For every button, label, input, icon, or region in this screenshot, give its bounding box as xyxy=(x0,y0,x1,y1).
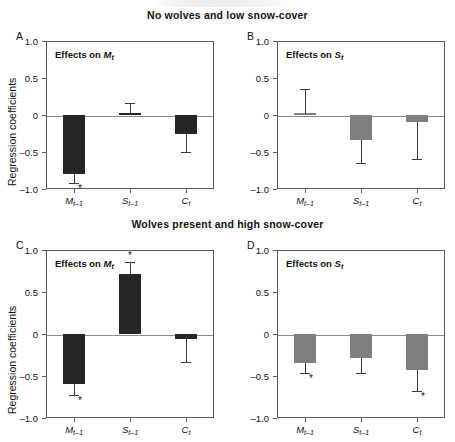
error-bar-c-2 xyxy=(186,339,187,362)
panel-caption-d: Effects on St xyxy=(286,258,343,269)
x-tick-label-c-1: St–1 xyxy=(122,424,138,435)
y-tick-mark-a-3 xyxy=(42,152,46,153)
significance-star-d-0: * xyxy=(309,374,313,384)
plot-area-c xyxy=(46,250,214,418)
y-axis-label-a: Regression coefficients xyxy=(6,78,18,186)
panel-caption-a: Effects on Mt xyxy=(55,49,114,60)
bar-b-1 xyxy=(350,115,372,140)
y-tick-label-d-3: –0.5 xyxy=(241,371,269,382)
y-tick-mark-b-4 xyxy=(273,189,277,190)
y-tick-label-b-4: –1.0 xyxy=(241,184,269,195)
x-tick-mark-b-2 xyxy=(417,189,418,193)
y-tick-mark-b-1 xyxy=(273,78,277,79)
y-tick-mark-d-2 xyxy=(273,334,277,335)
y-tick-label-b-1: 0.5 xyxy=(241,73,269,84)
y-tick-label-c-4: –1.0 xyxy=(10,413,38,424)
y-tick-mark-d-3 xyxy=(273,376,277,377)
error-cap-d-1 xyxy=(356,373,366,374)
panel-letter-d: D xyxy=(247,239,255,251)
error-cap-a-2 xyxy=(181,152,191,153)
y-tick-mark-b-0 xyxy=(273,41,277,42)
section-title-top: No wolves and low snow-cover xyxy=(0,9,455,21)
section-title-bottom: Wolves present and high snow-cover xyxy=(0,218,455,230)
error-bar-c-1 xyxy=(130,262,131,274)
y-tick-label-c-0: 1.0 xyxy=(10,245,38,256)
figure-root: No wolves and low snow-cover Wolves pres… xyxy=(0,0,455,442)
scan-artifact-strip xyxy=(150,0,300,7)
y-tick-label-d-4: –1.0 xyxy=(241,413,269,424)
error-bar-a-0 xyxy=(74,174,75,183)
bar-c-1 xyxy=(119,274,141,334)
error-bar-c-0 xyxy=(74,384,75,396)
y-tick-mark-c-3 xyxy=(42,376,46,377)
panel-letter-c: C xyxy=(16,239,24,251)
error-cap-c-0 xyxy=(69,395,79,396)
x-tick-mark-b-0 xyxy=(305,189,306,193)
zero-line-a xyxy=(47,116,213,117)
zero-line-d xyxy=(278,335,444,336)
error-cap-d-0 xyxy=(300,373,310,374)
y-tick-label-d-0: 1.0 xyxy=(241,245,269,256)
panel-letter-b: B xyxy=(247,30,254,42)
y-tick-label-d-1: 0.5 xyxy=(241,287,269,298)
y-tick-mark-c-0 xyxy=(42,250,46,251)
bar-b-2 xyxy=(406,115,428,122)
bar-a-0 xyxy=(63,115,85,174)
error-cap-b-0 xyxy=(300,89,310,90)
y-tick-label-c-1: 0.5 xyxy=(10,287,38,298)
x-tick-mark-c-0 xyxy=(74,418,75,422)
x-tick-mark-a-2 xyxy=(186,189,187,193)
bar-a-1 xyxy=(119,113,141,116)
error-cap-d-2 xyxy=(412,391,422,392)
panel-caption-c: Effects on Mt xyxy=(55,258,114,269)
error-cap-c-1 xyxy=(125,262,135,263)
y-tick-label-a-4: –1.0 xyxy=(10,184,38,195)
error-cap-a-0 xyxy=(69,183,79,184)
error-bar-d-2 xyxy=(417,370,418,391)
x-tick-label-c-2: Ct xyxy=(182,424,191,435)
bar-c-0 xyxy=(63,334,85,384)
bar-a-2 xyxy=(175,115,197,134)
y-tick-mark-c-1 xyxy=(42,292,46,293)
y-tick-mark-c-2 xyxy=(42,334,46,335)
x-tick-mark-b-1 xyxy=(361,189,362,193)
x-tick-mark-d-2 xyxy=(417,418,418,422)
y-tick-label-c-2: 0 xyxy=(10,329,38,340)
x-tick-label-d-2: Ct xyxy=(413,424,422,435)
plot-area-a xyxy=(46,41,214,189)
y-tick-label-a-1: 0.5 xyxy=(10,73,38,84)
bar-d-0 xyxy=(294,334,316,363)
panel-letter-a: A xyxy=(16,30,23,42)
y-tick-label-b-0: 1.0 xyxy=(241,36,269,47)
y-tick-label-d-2: 0 xyxy=(241,329,269,340)
panel-caption-b: Effects on St xyxy=(286,49,343,60)
y-tick-mark-a-2 xyxy=(42,115,46,116)
significance-star-c-1: * xyxy=(128,251,132,261)
x-tick-mark-d-1 xyxy=(361,418,362,422)
y-tick-label-a-0: 1.0 xyxy=(10,36,38,47)
bar-d-1 xyxy=(350,334,372,358)
y-tick-mark-c-4 xyxy=(42,418,46,419)
significance-star-c-0: * xyxy=(78,396,82,406)
error-bar-a-1 xyxy=(130,103,131,113)
x-tick-label-a-0: Mt–1 xyxy=(65,195,83,206)
y-axis-label-c: Regression coefficients xyxy=(6,306,18,414)
significance-star-d-2: * xyxy=(421,392,425,402)
x-tick-mark-d-0 xyxy=(305,418,306,422)
x-tick-mark-a-0 xyxy=(74,189,75,193)
x-tick-label-a-2: Ct xyxy=(182,195,191,206)
bar-c-2 xyxy=(175,334,197,339)
x-tick-mark-c-1 xyxy=(130,418,131,422)
error-cap-a-1 xyxy=(125,103,135,104)
x-tick-mark-c-2 xyxy=(186,418,187,422)
plot-area-d xyxy=(277,250,445,418)
y-tick-label-a-2: 0 xyxy=(10,110,38,121)
significance-star-a-0: * xyxy=(78,184,82,194)
plot-area-b xyxy=(277,41,445,189)
bar-b-0 xyxy=(294,113,316,116)
y-tick-label-c-3: –0.5 xyxy=(10,371,38,382)
error-bar-b-2 xyxy=(417,122,418,159)
x-tick-label-b-2: Ct xyxy=(413,195,422,206)
error-bar-b-1 xyxy=(361,140,362,163)
x-tick-label-c-0: Mt–1 xyxy=(65,424,83,435)
